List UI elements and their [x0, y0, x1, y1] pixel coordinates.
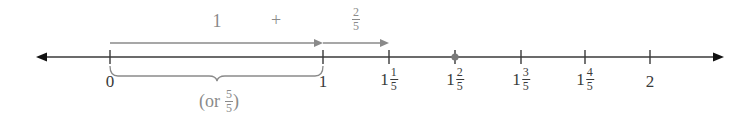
mixed-numerator: 3	[522, 66, 530, 80]
tick-label-0: 0	[106, 73, 115, 90]
highlight-point	[451, 53, 458, 60]
mixed-denominator: 5	[523, 80, 529, 93]
plus-operator: +	[271, 11, 281, 29]
brace-label-prefix: (or	[199, 92, 220, 110]
brace-fraction-numerator: 5	[225, 88, 233, 102]
brace-fraction-denominator: 5	[226, 102, 232, 115]
mixed-whole: 1	[576, 71, 585, 88]
tick-label-2: 2	[646, 73, 655, 90]
jump-arrow-fraction-head-icon	[380, 39, 389, 47]
tick-label-1: 1	[319, 73, 328, 90]
brace	[110, 66, 323, 81]
mixed-denominator: 5	[457, 80, 463, 93]
jump-fraction-denominator: 5	[353, 20, 359, 33]
tick-label-1-4-5: 1 4 5	[576, 66, 594, 92]
jump-label-fraction: 2 5	[352, 6, 360, 32]
right-arrow-icon	[713, 53, 724, 62]
brace-label-suffix: )	[233, 92, 239, 110]
mixed-numerator: 2	[456, 66, 464, 80]
jump-arrow-whole-head-icon	[314, 39, 323, 47]
number-line-graphic	[0, 0, 753, 125]
mixed-whole: 1	[512, 71, 521, 88]
mixed-denominator: 5	[391, 80, 397, 93]
tick-label-1-1-5: 1 1 5	[380, 66, 398, 92]
mixed-whole: 1	[446, 71, 455, 88]
mixed-denominator: 5	[587, 80, 593, 93]
mixed-whole: 1	[380, 71, 389, 88]
tick-label-1-2-5: 1 2 5	[446, 66, 464, 92]
left-arrow-icon	[36, 53, 47, 62]
mixed-numerator: 1	[390, 66, 398, 80]
tick-label-1-3-5: 1 3 5	[512, 66, 530, 92]
jump-fraction-numerator: 2	[352, 6, 360, 20]
mixed-numerator: 4	[586, 66, 594, 80]
brace-label: (or 5 5 )	[199, 88, 239, 114]
jump-label-whole: 1	[213, 12, 222, 30]
